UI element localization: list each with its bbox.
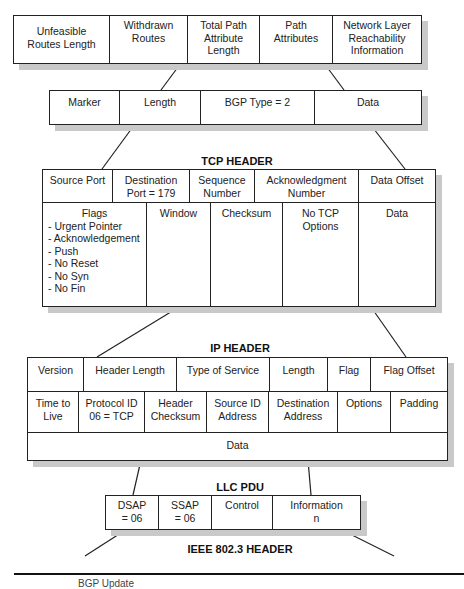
field-ip-data: Data bbox=[28, 433, 447, 460]
bgp-header-box: Marker Length BGP Type = 2 Data bbox=[49, 90, 422, 125]
field-sequence-number: Sequence Number bbox=[189, 170, 254, 202]
field-protocol-id: Protocol ID 06 = TCP bbox=[78, 392, 144, 432]
field-withdrawn-routes: Withdrawn Routes bbox=[109, 16, 187, 63]
field-path-attributes: Path Attributes bbox=[259, 16, 332, 63]
llc-pdu-box: DSAP = 06 SSAP = 06 Control Information … bbox=[105, 495, 361, 530]
field-version: Version bbox=[28, 358, 83, 391]
ieee-header-title: IEEE 802.3 HEADER bbox=[187, 543, 292, 555]
field-unfeasible-routes-length: Unfeasible Routes Length bbox=[14, 16, 109, 63]
field-source-id-address: Source ID Address bbox=[206, 392, 268, 432]
field-flag: Flag bbox=[327, 358, 370, 391]
field-control: Control bbox=[211, 496, 272, 529]
field-header-length: Header Length bbox=[83, 358, 176, 391]
field-type-of-service: Type of Service bbox=[176, 358, 269, 391]
flag-item: - Urgent Pointer bbox=[48, 220, 146, 233]
field-flags: Flags - Urgent Pointer - Acknowledgement… bbox=[43, 203, 146, 306]
flag-item: - No Syn bbox=[48, 270, 146, 283]
field-ip-length: Length bbox=[269, 358, 327, 391]
bottom-rule bbox=[14, 573, 464, 575]
field-destination-port: Destination Port = 179 bbox=[112, 170, 189, 202]
field-padding: Padding bbox=[390, 392, 447, 432]
figure-caption: BGP Update bbox=[78, 578, 134, 589]
ip-header-box: Version Header Length Type of Service Le… bbox=[27, 357, 448, 461]
field-total-path-attribute-length: Total Path Attribute Length bbox=[187, 16, 259, 63]
field-window: Window bbox=[146, 203, 210, 306]
field-dsap: DSAP = 06 bbox=[106, 496, 158, 529]
field-time-to-live: Time to Live bbox=[28, 392, 78, 432]
field-data-offset: Data Offset bbox=[358, 170, 435, 202]
field-acknowledgment-number: Acknowledgment Number bbox=[254, 170, 358, 202]
field-destination-address: Destination Address bbox=[268, 392, 337, 432]
field-tcp-data: Data bbox=[358, 203, 435, 306]
tcp-header-title: TCP HEADER bbox=[201, 155, 272, 167]
field-checksum: Checksum bbox=[210, 203, 282, 306]
flag-item: - Push bbox=[48, 245, 146, 258]
field-marker: Marker bbox=[50, 91, 119, 124]
flag-item: - Acknowledgement bbox=[48, 232, 146, 245]
field-information: Information n bbox=[272, 496, 360, 529]
bgp-update-box: Unfeasible Routes Length Withdrawn Route… bbox=[13, 15, 422, 64]
field-source-port: Source Port bbox=[43, 170, 112, 202]
field-no-tcp-options: No TCP Options bbox=[282, 203, 358, 306]
field-ssap: SSAP = 06 bbox=[158, 496, 211, 529]
field-flag-offset: Flag Offset bbox=[370, 358, 447, 391]
flag-item: - No Fin bbox=[48, 282, 146, 295]
flag-item: - No Reset bbox=[48, 257, 146, 270]
flags-title: Flags bbox=[43, 207, 146, 220]
field-header-checksum: Header Checksum bbox=[144, 392, 206, 432]
field-bgp-type: BGP Type = 2 bbox=[200, 91, 314, 124]
field-options: Options bbox=[337, 392, 390, 432]
llc-pdu-title: LLC PDU bbox=[216, 481, 264, 493]
flags-list: - Urgent Pointer - Acknowledgement - Pus… bbox=[43, 220, 146, 295]
ip-header-title: IP HEADER bbox=[210, 342, 270, 354]
field-length: Length bbox=[119, 91, 200, 124]
field-nlri: Network Layer Reachability Information bbox=[332, 16, 421, 63]
field-data: Data bbox=[314, 91, 421, 124]
tcp-header-box: Source Port Destination Port = 179 Seque… bbox=[42, 169, 436, 307]
